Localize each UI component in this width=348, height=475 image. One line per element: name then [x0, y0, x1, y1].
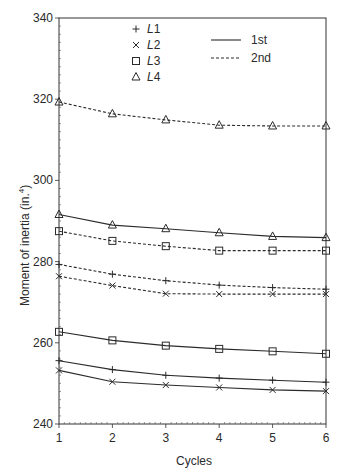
- plus-marker-icon: [216, 282, 223, 289]
- x-axis-label: Cycles: [176, 454, 212, 468]
- y-tick-label: 320: [33, 92, 53, 106]
- series-l1-1st: [56, 357, 330, 386]
- x-tick-label: 2: [109, 431, 116, 445]
- plus-marker-icon: [109, 271, 116, 278]
- series-line: [59, 264, 326, 289]
- y-tick-label: 280: [33, 255, 53, 269]
- cross-marker-icon: [133, 42, 139, 48]
- y-axis-label-text: Moment of inertia (in.: [18, 193, 32, 306]
- cross-marker-icon: [216, 291, 222, 297]
- series-l3-1st: [56, 328, 330, 357]
- series-line: [59, 332, 326, 354]
- series-line: [59, 215, 326, 238]
- series-l3-2nd: [56, 228, 330, 254]
- plus-marker-icon: [162, 372, 169, 379]
- x-tick-label: 3: [162, 431, 169, 445]
- legend-label: L3: [147, 54, 161, 68]
- y-tick-label: 300: [33, 173, 53, 187]
- legend-line-2nd: 2nd: [211, 51, 271, 65]
- data-series: [55, 98, 330, 395]
- legend-label-number: 4: [154, 70, 161, 84]
- y-axis-label-close: ): [18, 185, 32, 189]
- square-marker-icon: [133, 58, 140, 65]
- legend-item-l4: L4: [132, 70, 161, 84]
- x-tick-label: 5: [269, 431, 276, 445]
- y-axis-label: Moment of inertia (in.4): [17, 185, 32, 306]
- legend-label: 1st: [251, 33, 268, 47]
- legend-label: 2nd: [251, 51, 271, 65]
- legend-label-number: 3: [154, 54, 161, 68]
- plot-border: [59, 18, 326, 424]
- triangle-marker-icon: [215, 228, 223, 236]
- series-l2-2nd: [56, 273, 329, 297]
- legend: L1L2L3L41st2nd: [132, 22, 271, 84]
- legend-label: L4: [147, 70, 161, 84]
- plus-marker-icon: [109, 366, 116, 373]
- plus-marker-icon: [162, 277, 169, 284]
- plus-marker-icon: [216, 375, 223, 382]
- y-tick-label: 240: [33, 417, 53, 431]
- legend-item-l3: L3: [133, 54, 161, 68]
- x-axis-ticks: 123456: [56, 422, 330, 445]
- series-line: [59, 276, 326, 294]
- series-l4-2nd: [55, 98, 330, 129]
- triangle-marker-icon: [132, 73, 140, 81]
- legend-line-1st: 1st: [211, 33, 268, 47]
- x-tick-label: 1: [56, 431, 63, 445]
- plot-frame: [59, 18, 326, 424]
- x-tick-label: 4: [216, 431, 223, 445]
- triangle-marker-icon: [215, 121, 223, 129]
- y-tick-label: 260: [33, 336, 53, 350]
- plus-marker-icon: [269, 377, 276, 384]
- legend-label: L1: [147, 22, 161, 36]
- series-line: [59, 231, 326, 250]
- legend-item-l1: L1: [133, 22, 161, 36]
- series-l4-1st: [55, 210, 330, 241]
- plot-area: 240260280300320340 123456 L1L2L3L41st2nd: [0, 0, 348, 475]
- y-tick-label: 340: [33, 11, 53, 25]
- triangle-marker-icon: [269, 121, 277, 129]
- plus-marker-icon: [133, 26, 140, 33]
- y-axis-label-exponent: 4: [17, 189, 26, 193]
- plus-marker-icon: [56, 357, 63, 364]
- plus-marker-icon: [269, 284, 276, 291]
- legend-label-number: 1: [154, 22, 161, 36]
- x-tick-label: 6: [323, 431, 330, 445]
- series-line: [59, 102, 326, 126]
- plus-marker-icon: [323, 379, 330, 386]
- legend-label: L2: [147, 38, 161, 52]
- series-l1-2nd: [56, 261, 330, 293]
- legend-label-number: 2: [154, 38, 161, 52]
- moment-of-inertia-chart: 240260280300320340 123456 L1L2L3L41st2nd…: [0, 0, 348, 475]
- legend-item-l2: L2: [133, 38, 161, 52]
